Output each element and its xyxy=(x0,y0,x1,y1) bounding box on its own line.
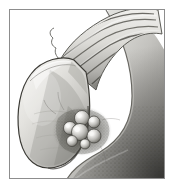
gallstone xyxy=(88,116,100,128)
gallstone xyxy=(67,136,78,147)
figure-root xyxy=(0,0,173,193)
illustration-frame xyxy=(9,9,165,179)
gallstone xyxy=(75,111,90,126)
gallbladder-illustration xyxy=(10,10,164,178)
gallstone xyxy=(80,139,90,149)
